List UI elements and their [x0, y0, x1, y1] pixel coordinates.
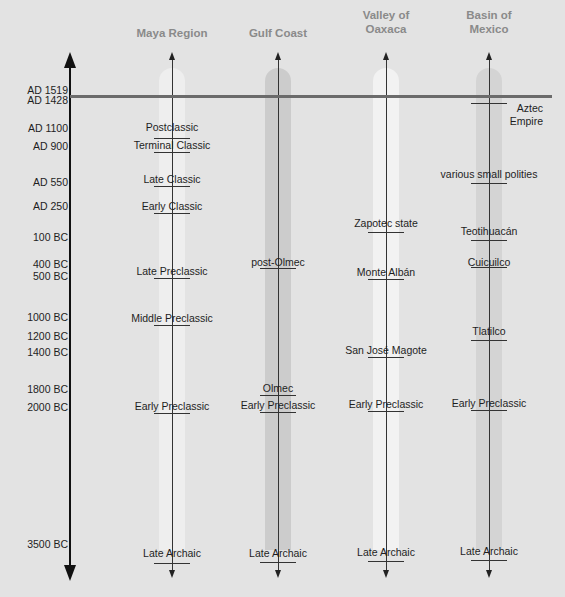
period-label: Late Archaic: [249, 547, 307, 559]
period-label: Late Preclassic: [136, 265, 207, 277]
period-label: Late Archaic: [143, 547, 201, 559]
period-label: various small polities: [441, 168, 538, 180]
period-boundary: [471, 103, 507, 104]
period-boundary: [154, 413, 190, 414]
axis-arrow-down-icon: [64, 565, 76, 581]
arrow-up-icon: [383, 52, 389, 60]
region-title: Gulf Coast: [223, 26, 333, 40]
time-label: 1000 BC: [27, 311, 68, 323]
period-label: Aztec Empire: [503, 102, 543, 128]
time-label: 3500 BC: [27, 538, 68, 550]
arrow-down-icon: [486, 570, 492, 578]
time-label: AD 1100: [28, 122, 68, 134]
conquest-reference-line: [70, 95, 552, 98]
period-label: Early Preclassic: [349, 398, 424, 410]
period-label: Early Preclassic: [135, 400, 210, 412]
region-title: Basin of Mexico: [454, 8, 524, 36]
arrow-down-icon: [169, 570, 175, 578]
period-label: Late Archaic: [460, 545, 518, 557]
region-timeline: [489, 58, 490, 570]
period-boundary: [260, 268, 296, 269]
period-boundary: [471, 340, 507, 341]
time-axis: [69, 62, 71, 570]
period-label: post-Olmec: [251, 256, 305, 268]
period-boundary: [154, 563, 190, 564]
period-label: Zapotec state: [354, 217, 418, 229]
time-label: AD 900: [33, 140, 68, 152]
time-label: AD 550: [33, 176, 68, 188]
period-label: Tlatilco: [472, 325, 505, 337]
period-label: Olmec: [263, 382, 293, 394]
period-label: Early Preclassic: [452, 397, 527, 409]
time-label: AD 250: [33, 200, 68, 212]
period-boundary: [471, 240, 507, 241]
period-boundary: [260, 412, 296, 413]
period-boundary: [368, 561, 404, 562]
period-boundary: [154, 325, 190, 326]
period-boundary: [471, 183, 507, 184]
period-boundary: [154, 278, 190, 279]
time-label: 2000 BC: [27, 401, 68, 413]
period-boundary: [368, 279, 404, 280]
period-boundary: [471, 410, 507, 411]
period-label: Teotihuacán: [461, 225, 518, 237]
period-boundary: [471, 560, 507, 561]
time-label: 1800 BC: [27, 383, 68, 395]
period-boundary: [368, 232, 404, 233]
arrow-up-icon: [486, 52, 492, 60]
time-label: 1200 BC: [27, 330, 68, 342]
time-label: 100 BC: [33, 231, 68, 243]
period-label: Early Preclassic: [241, 399, 316, 411]
period-label: San José Magote: [345, 344, 427, 356]
axis-arrow-up-icon: [64, 52, 76, 68]
time-label: 400 BC: [33, 258, 68, 270]
period-label: Terminal Classic: [134, 139, 210, 151]
arrow-down-icon: [383, 570, 389, 578]
region-title: Maya Region: [117, 26, 227, 40]
period-boundary: [154, 152, 190, 153]
period-label: Late Classic: [143, 173, 200, 185]
period-label: Postclassic: [146, 121, 199, 133]
period-boundary: [368, 411, 404, 412]
time-label: 1400 BC: [27, 346, 68, 358]
period-label: Late Archaic: [357, 546, 415, 558]
arrow-up-icon: [169, 52, 175, 60]
region-timeline: [278, 58, 279, 570]
time-label: AD 1428: [27, 94, 68, 106]
region-timeline: [386, 58, 387, 570]
period-label: Middle Preclassic: [131, 312, 213, 324]
period-boundary: [260, 562, 296, 563]
time-label: 500 BC: [33, 270, 68, 282]
arrow-down-icon: [275, 570, 281, 578]
period-label: Early Classic: [142, 200, 203, 212]
period-boundary: [471, 267, 507, 268]
arrow-up-icon: [275, 52, 281, 60]
period-boundary: [368, 357, 404, 358]
period-boundary: [260, 395, 296, 396]
period-boundary: [154, 213, 190, 214]
period-label: Monte Albán: [357, 266, 415, 278]
region-title: Valley of Oaxaca: [351, 8, 421, 36]
period-boundary: [154, 186, 190, 187]
